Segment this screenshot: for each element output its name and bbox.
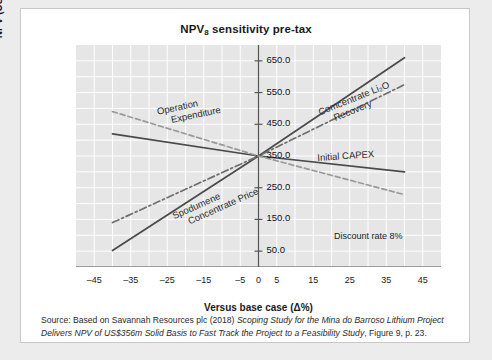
x-tick-label: 35 — [381, 275, 391, 285]
page-background: NPV8 sensitivity pre-tax NPV (US$m) 50.0… — [0, 0, 492, 360]
x-tick-label: 25 — [345, 275, 355, 285]
y-tick-label: 50.0 — [267, 244, 286, 255]
y-tick-label: 550.0 — [267, 86, 291, 97]
x-tick-label: –15 — [196, 275, 211, 285]
x-tick-label: 5 — [274, 275, 279, 285]
x-tick-label: –35 — [123, 275, 138, 285]
caption-suffix: , Figure 9, p. 23. — [364, 328, 427, 338]
x-tick-label: 0 — [256, 275, 261, 285]
y-tick-label: 650.0 — [267, 54, 291, 65]
x-tick-label: 45 — [418, 275, 428, 285]
source-caption: Source: Based on Savannah Resources plc … — [41, 314, 453, 341]
y-tick-label: 250.0 — [267, 181, 291, 192]
figure-card: NPV8 sensitivity pre-tax NPV (US$m) 50.0… — [20, 8, 470, 343]
chart-title-rest: sensitivity pre-tax — [209, 23, 312, 35]
x-tick-label: –25 — [160, 275, 175, 285]
y-tick-label: 350.0 — [267, 149, 291, 160]
discount-rate-note: Discount rate 8% — [334, 231, 403, 241]
y-tick-label: 150.0 — [267, 212, 291, 223]
plot-area: 50.0150.0250.0350.0450.0550.0650.0 Opera… — [76, 45, 441, 267]
x-axis-title: Versus base case (Δ%) — [76, 302, 441, 313]
x-tick-labels: –45–35–25–15–50515253545 — [76, 275, 441, 289]
chart-title: NPV8 sensitivity pre-tax — [21, 23, 471, 37]
x-tick-label: 15 — [308, 275, 318, 285]
y-tick-label: 450.0 — [267, 117, 291, 128]
x-tick-label: –5 — [235, 275, 245, 285]
y-axis-title: NPV (US$m) — [0, 0, 4, 69]
x-tick-label: –45 — [87, 275, 102, 285]
chart-title-main: NPV — [180, 23, 204, 35]
caption-prefix: Source: Based on Savannah Resources plc … — [41, 315, 237, 325]
